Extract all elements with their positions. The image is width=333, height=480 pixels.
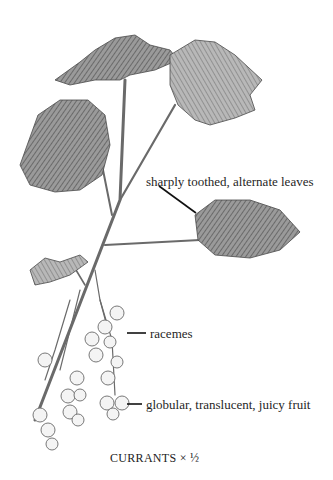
- leaf-icon: [20, 35, 300, 285]
- figure-caption: CURRANTS × ½: [110, 451, 199, 466]
- leader-lines: [127, 186, 196, 404]
- fruit-label: globular, translucent, juicy fruit: [146, 398, 310, 411]
- berry-cluster-icon: [33, 306, 129, 450]
- racemes-label: racemes: [150, 327, 193, 340]
- leaves-label: sharply toothed, alternate leaves: [146, 175, 314, 188]
